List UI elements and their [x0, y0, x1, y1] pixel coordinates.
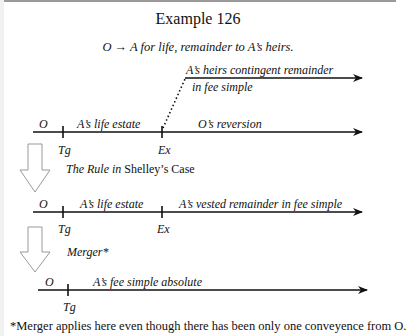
timeline2-tick1-label: Tg: [58, 222, 71, 236]
timeline3-start-label: O: [45, 275, 54, 289]
transition2-label: Merger*: [67, 245, 109, 259]
timeline2-tick2-label: Ex: [157, 222, 170, 236]
timeline2-segment1-label: A’s life estate: [80, 197, 143, 211]
branch-label-line1: A’s heirs contingent remainder: [186, 63, 333, 77]
transition1-plain: Shelley’s Case: [124, 162, 194, 176]
timeline1-segment2-label: O’s reversion: [198, 117, 262, 131]
down-arrow-2: [20, 227, 50, 272]
timeline3-segment1-label: A’s fee simple absolute: [93, 275, 202, 289]
timeline2-start-label: O: [39, 197, 48, 211]
branch-dotted-connector: [163, 79, 185, 128]
timeline2-segment2-label: A’s vested remainder in fee simple: [179, 197, 342, 211]
timeline1-segment1-label: A’s life estate: [77, 117, 140, 131]
timeline3-tick1-label: Tg: [63, 300, 76, 314]
timeline1-tick1-label: Tg: [58, 143, 71, 157]
down-arrow-1: [20, 144, 50, 192]
branch-label-line2: in fee simple: [192, 80, 253, 94]
transition1-italic: The Rule in: [66, 162, 121, 176]
transition1-label: The Rule in Shelley’s Case: [66, 162, 195, 176]
timeline1-start-label: O: [39, 117, 48, 131]
timeline1-tick2-label: Ex: [158, 143, 171, 157]
footnote: *Merger applies here even though there h…: [10, 319, 407, 334]
